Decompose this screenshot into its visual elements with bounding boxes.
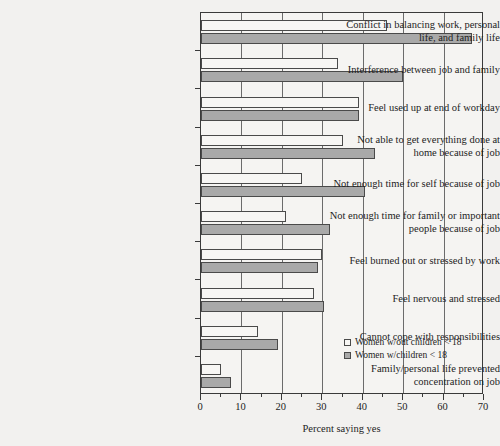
category-label-line: Feel used up at end of workday xyxy=(312,101,500,114)
category-label-line: Feel burned out or stressed by work xyxy=(312,254,500,267)
legend-label-child: Women w/children < 18 xyxy=(355,349,447,362)
x-axis-tick-label: 0 xyxy=(197,401,202,412)
category-label: Not able to get everything done athome b… xyxy=(312,133,500,159)
legend-item-women-without-children: Women w/out children < 18 xyxy=(344,336,461,349)
category-label: Feel used up at end of workday xyxy=(312,101,500,114)
x-axis: 010203040506070 xyxy=(200,394,483,395)
legend-swatch-icon-child xyxy=(344,352,351,359)
bar xyxy=(201,339,278,350)
legend-item-women-with-children: Women w/children < 18 xyxy=(344,349,461,362)
legend-swatch-icon-nochild xyxy=(344,339,351,346)
x-axis-tick-65 xyxy=(463,394,464,397)
bar xyxy=(201,173,302,184)
bar xyxy=(201,377,231,388)
category-label: Feel burned out or stressed by work xyxy=(312,254,500,267)
y-axis-tick xyxy=(195,50,200,51)
category-label-line: Not enough time for family or important xyxy=(312,209,500,222)
bar xyxy=(201,211,286,222)
y-axis-tick xyxy=(195,127,200,128)
bar xyxy=(201,262,318,273)
legend: Women w/out children < 18 Women w/childr… xyxy=(344,336,461,362)
x-axis-tick-45 xyxy=(382,394,383,397)
bar xyxy=(201,301,324,312)
category-label-line: Not enough time for self because of job xyxy=(312,177,500,190)
legend-label-nochild: Women w/out children < 18 xyxy=(355,336,461,349)
x-axis-tick-5 xyxy=(220,394,221,397)
x-axis-tick-50 xyxy=(402,394,403,400)
x-axis-tick-label: 20 xyxy=(276,401,287,412)
category-label-line: home because of job xyxy=(312,146,500,159)
category-label: Interference between job and family xyxy=(312,63,500,76)
x-axis-tick-10 xyxy=(240,394,241,400)
x-axis-tick-15 xyxy=(261,394,262,397)
category-label: Family/personal life preventedconcentrat… xyxy=(312,362,500,388)
bar-chart: Conflict in balancing work, personallife… xyxy=(0,0,500,446)
category-label-line: Not able to get everything done at xyxy=(312,133,500,146)
y-axis-tick xyxy=(195,203,200,204)
x-axis-tick-label: 70 xyxy=(478,401,489,412)
x-axis-tick-label: 60 xyxy=(437,401,448,412)
y-axis-tick xyxy=(195,88,200,89)
x-axis-tick-20 xyxy=(281,394,282,400)
category-label: Feel nervous and stressed xyxy=(312,292,500,305)
category-label-line: Interference between job and family xyxy=(312,63,500,76)
y-axis-tick xyxy=(195,318,200,319)
gridline-20 xyxy=(282,13,283,393)
category-label: Not enough time for family or importantp… xyxy=(312,209,500,235)
bar xyxy=(201,326,258,337)
category-label-line: people because of job xyxy=(312,222,500,235)
x-axis-tick-40 xyxy=(362,394,363,400)
category-label: Not enough time for self because of job xyxy=(312,177,500,190)
x-axis-tick-60 xyxy=(443,394,444,400)
y-axis-tick xyxy=(195,241,200,242)
y-axis-tick xyxy=(195,356,200,357)
bar xyxy=(201,288,314,299)
category-label-line: Conflict in balancing work, personal xyxy=(312,18,500,31)
x-axis-tick-label: 10 xyxy=(235,401,246,412)
x-axis-tick-30 xyxy=(321,394,322,400)
bar xyxy=(201,224,330,235)
bar xyxy=(201,364,221,375)
category-label: Conflict in balancing work, personallife… xyxy=(312,18,500,44)
x-axis-tick-70 xyxy=(483,394,484,400)
category-label-line: Feel nervous and stressed xyxy=(312,292,500,305)
x-axis-tick-25 xyxy=(301,394,302,397)
x-axis-tick-label: 50 xyxy=(397,401,408,412)
x-axis-tick-35 xyxy=(342,394,343,397)
x-axis-tick-label: 40 xyxy=(356,401,367,412)
x-axis-tick-label: 30 xyxy=(316,401,327,412)
x-axis-tick-0 xyxy=(200,394,201,400)
category-label-line: concentration on job xyxy=(312,375,500,388)
x-axis-tick-55 xyxy=(422,394,423,397)
y-axis-tick xyxy=(195,279,200,280)
category-label-line: Family/personal life prevented xyxy=(312,362,500,375)
y-axis-tick xyxy=(195,165,200,166)
category-label-line: life, and family life xyxy=(312,31,500,44)
x-axis-label: Percent saying yes xyxy=(200,423,483,434)
bar xyxy=(201,249,322,260)
